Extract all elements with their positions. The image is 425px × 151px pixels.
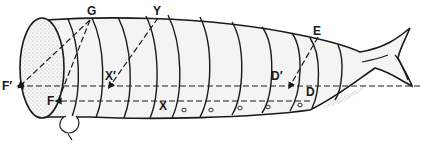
label-G: G (87, 5, 96, 17)
label-E: E (313, 25, 321, 37)
label-Y: Y (153, 5, 161, 17)
head-end-cap (20, 18, 64, 118)
label-F: F (47, 95, 54, 107)
label-D: D (306, 86, 315, 98)
label-F-prime: F′ (2, 80, 12, 92)
mouthpart (60, 116, 79, 140)
label-X: X (159, 100, 167, 112)
label-X-prime: X′ (105, 70, 116, 82)
larva-diagram (0, 0, 425, 151)
label-D-prime: D′ (271, 70, 283, 82)
